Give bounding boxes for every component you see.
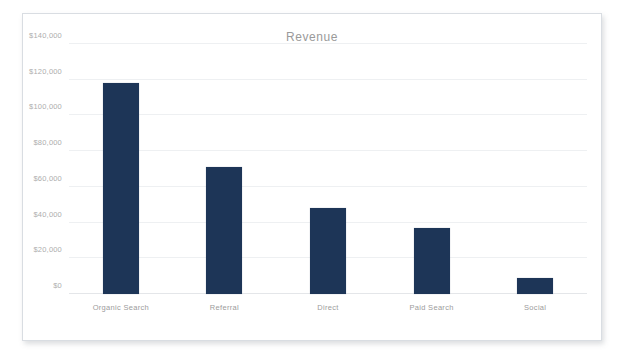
y-axis-tick-label: $20,000 <box>33 245 62 254</box>
y-axis-tick-label: $140,000 <box>29 31 62 40</box>
bar[interactable] <box>517 278 553 294</box>
y-axis-tick-label: $60,000 <box>33 173 62 182</box>
bar-group[interactable]: Paid Search <box>380 44 484 294</box>
chart-title: Revenue <box>23 30 601 44</box>
bar-group[interactable]: Social <box>483 44 587 294</box>
revenue-chart-panel: Revenue $0$20,000$40,000$60,000$80,000$1… <box>22 13 602 341</box>
bar[interactable] <box>103 83 139 294</box>
x-axis-category-label: Paid Search <box>410 303 454 312</box>
bar[interactable] <box>310 208 346 294</box>
x-axis-category-label: Social <box>524 303 546 312</box>
y-axis-tick-label: $100,000 <box>29 102 62 111</box>
y-axis-tick-label: $120,000 <box>29 66 62 75</box>
x-axis-category-label: Direct <box>317 303 338 312</box>
bar[interactable] <box>414 228 450 294</box>
bar-group[interactable]: Referral <box>173 44 277 294</box>
x-axis-category-label: Organic Search <box>93 303 149 312</box>
y-axis-tick-label: $40,000 <box>33 209 62 218</box>
y-axis-tick-label: $0 <box>53 281 62 290</box>
bar[interactable] <box>206 167 242 294</box>
bar-group[interactable]: Organic Search <box>69 44 173 294</box>
x-axis-category-label: Referral <box>210 303 239 312</box>
y-axis-tick-label: $80,000 <box>33 138 62 147</box>
plot-area: $0$20,000$40,000$60,000$80,000$100,000$1… <box>69 44 587 294</box>
bar-group[interactable]: Direct <box>276 44 380 294</box>
scan-artifact-band <box>0 340 624 364</box>
bars-layer: Organic SearchReferralDirectPaid SearchS… <box>69 44 587 294</box>
